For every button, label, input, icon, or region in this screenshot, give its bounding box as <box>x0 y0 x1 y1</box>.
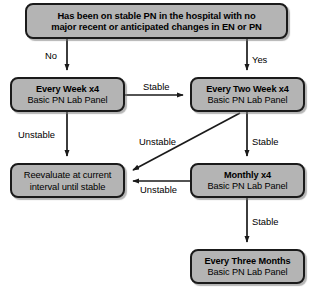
node-question-line1: Has been on stable PN in the hospital wi… <box>57 10 255 21</box>
edge-label-stable-monthly-to-threemonths: Stable <box>252 216 279 227</box>
node-monthly-title: Monthly x4 <box>224 170 271 181</box>
node-every-two-week-title: Every Two Week x4 <box>206 84 289 95</box>
node-every-three-months-subtitle: Basic PN Lab Panel <box>208 267 288 278</box>
node-monthly: Monthly x4 Basic PN Lab Panel <box>190 163 305 198</box>
node-reevaluate: Reevaluate at current interval until sta… <box>10 163 125 198</box>
node-question: Has been on stable PN in the hospital wi… <box>25 3 288 39</box>
node-every-week-subtitle: Basic PN Lab Panel <box>28 95 108 106</box>
node-reevaluate-line1: Reevaluate at current <box>24 169 112 180</box>
edge-label-unstable-weekly-to-reevaluate: Unstable <box>18 129 55 140</box>
node-every-three-months-title: Every Three Months <box>204 256 290 267</box>
node-question-line2: major recent or anticipated changes in E… <box>51 21 261 32</box>
edge-label-unstable-monthly-to-reevaluate: Unstable <box>140 184 177 195</box>
edge-label-no: No <box>45 50 57 61</box>
node-every-two-week: Every Two Week x4 Basic PN Lab Panel <box>190 77 305 112</box>
edge-label-stable-twoweek-to-monthly: Stable <box>252 136 279 147</box>
edge-label-yes: Yes <box>252 54 267 65</box>
node-every-three-months: Every Three Months Basic PN Lab Panel <box>190 249 305 284</box>
edge-label-stable-weekly-to-twoweek: Stable <box>143 81 170 92</box>
node-every-week-title: Every Week x4 <box>36 84 99 95</box>
node-every-week: Every Week x4 Basic PN Lab Panel <box>10 77 125 112</box>
node-every-two-week-subtitle: Basic PN Lab Panel <box>208 95 288 106</box>
edge-label-unstable-twoweek-to-reevaluate: Unstable <box>139 136 176 147</box>
flowchart-canvas: Has been on stable PN in the hospital wi… <box>0 0 312 291</box>
node-reevaluate-line2: interval until stable <box>30 181 106 192</box>
node-monthly-subtitle: Basic PN Lab Panel <box>208 181 288 192</box>
